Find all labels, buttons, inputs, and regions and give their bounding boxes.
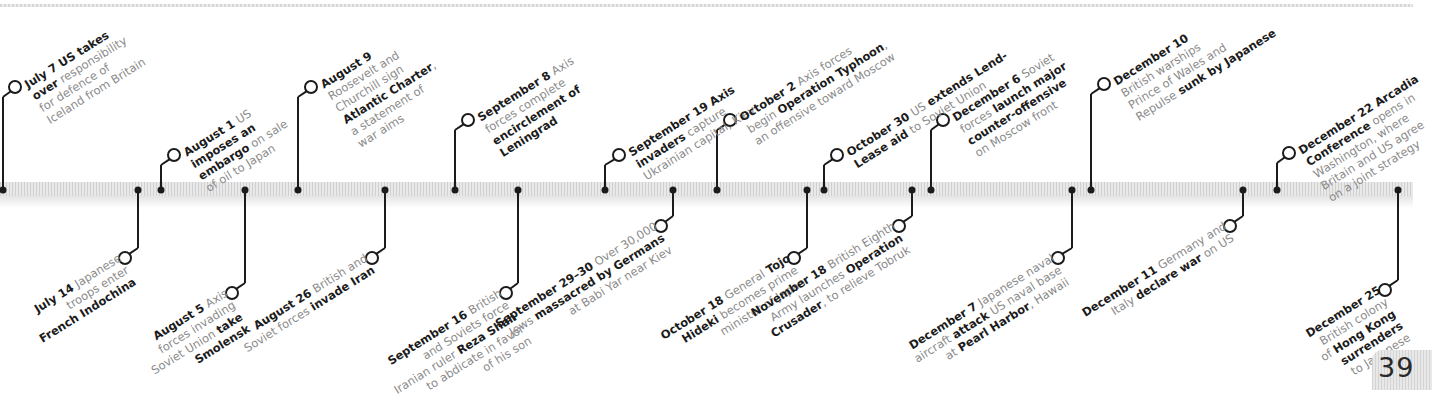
event-marker-circle [462, 114, 474, 126]
event-dot [295, 187, 302, 194]
event-elbow [129, 248, 138, 254]
event-dot [135, 187, 142, 194]
event-dot [602, 187, 609, 194]
event-elbow [376, 248, 385, 254]
event-dot [515, 187, 522, 194]
event-elbow [1062, 248, 1072, 254]
event-marker-circle [1098, 78, 1110, 90]
event-marker-circle [9, 81, 21, 93]
event-marker-circle [831, 149, 843, 161]
event-elbow [903, 216, 912, 222]
event-elbow [798, 248, 807, 254]
event-elbow [236, 283, 245, 289]
event-marker-circle [613, 149, 625, 161]
event-elbow [1091, 88, 1100, 94]
event-elbow [510, 283, 518, 289]
event-dot [242, 187, 249, 194]
event-elbow [161, 159, 170, 165]
event-dot [928, 187, 935, 194]
event-elbow [824, 159, 833, 165]
event-elbow [605, 159, 615, 165]
event-dot [0, 187, 7, 194]
event-dot [1395, 187, 1402, 194]
event-marker-circle [305, 81, 317, 93]
event-elbow [1277, 157, 1285, 163]
event-dot [1088, 187, 1095, 194]
event-marker-circle [168, 149, 180, 161]
event-dot [909, 187, 916, 194]
event-dot [714, 187, 721, 194]
event-dot [1069, 187, 1076, 194]
event-elbow [455, 124, 464, 130]
event-dot [1240, 187, 1247, 194]
page-number: 39 [1378, 352, 1414, 383]
event-dot [452, 187, 459, 194]
event-elbow [1234, 216, 1243, 222]
event-elbow [3, 91, 11, 97]
event-elbow [665, 216, 673, 222]
event-dot [804, 187, 811, 194]
event-dot [382, 187, 389, 194]
event-dot [670, 187, 677, 194]
event-dot [821, 187, 828, 194]
event-elbow [298, 91, 307, 97]
event-dot [158, 187, 165, 194]
event-dot [1274, 187, 1281, 194]
event-elbow [1389, 280, 1398, 286]
event-marker-circle [1283, 147, 1295, 159]
